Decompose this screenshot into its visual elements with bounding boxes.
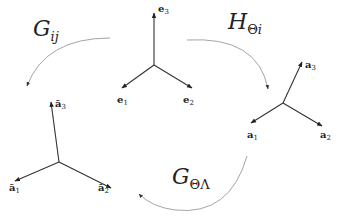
axis-a1 (251, 103, 283, 123)
label-a3-sub: 3 (311, 64, 315, 72)
axis-abar1 (15, 162, 59, 181)
label-abar2-sub: 2 (104, 187, 108, 195)
label-e2-sub: 2 (189, 99, 193, 107)
label-h-sub: Θi (247, 22, 262, 37)
label-a1: a1 (247, 130, 258, 142)
label-g-tl-base: G (172, 164, 190, 189)
axis-abar3 (51, 102, 59, 162)
label-g-ij-base: G (33, 16, 51, 41)
label-abar3: ā3 (55, 99, 66, 111)
label-e3: e3 (158, 4, 169, 16)
label-e2: e2 (183, 95, 194, 107)
label-abar3-sub: 3 (61, 103, 65, 111)
axis-e1 (122, 65, 154, 88)
axis-a3 (283, 62, 302, 103)
label-g-tl-sub-text: ΘΛ (190, 177, 210, 192)
arc-h-theta-i (187, 40, 268, 89)
label-g-ij-sub: ij (51, 29, 59, 44)
label-h-theta-i: HΘi (228, 11, 262, 36)
label-abar2: ā2 (98, 183, 109, 195)
label-a2: a2 (320, 130, 331, 142)
label-a1-sub: 1 (253, 134, 257, 142)
label-g-theta-lambda: GΘΛ (172, 166, 210, 191)
label-e1-sub: 1 (123, 99, 127, 107)
label-h-sub-i: i (258, 22, 262, 37)
label-abar1: ā1 (9, 183, 20, 195)
label-h-sub-theta: Θ (247, 22, 258, 37)
label-e1: e1 (117, 95, 128, 107)
axis-a2 (283, 103, 322, 126)
label-g-ij: Gij (33, 18, 59, 43)
label-h-base: H (228, 9, 247, 34)
frame-e (122, 13, 192, 88)
axis-e2 (154, 65, 192, 88)
label-e3-sub: 3 (164, 8, 168, 16)
label-a3: a3 (305, 60, 316, 72)
label-a2-sub: 2 (326, 134, 330, 142)
frame-a-bar (15, 102, 111, 188)
label-abar1-sub: 1 (15, 187, 19, 195)
arc-g-ij (27, 38, 110, 86)
label-g-tl-sub: ΘΛ (190, 177, 210, 192)
